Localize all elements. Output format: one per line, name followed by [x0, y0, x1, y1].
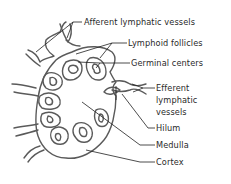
label-efferent-line3: vessels [156, 107, 187, 117]
efferent-vessels-shape [104, 81, 146, 94]
lymphoid-follicles [39, 58, 109, 145]
lymph-node-diagram [0, 0, 231, 184]
label-efferent-line2: lymphatic [156, 95, 197, 105]
label-afferent-lymphatic-vessels: Afferent lymphatic vessels [84, 17, 195, 27]
label-lymphoid-follicles: Lymphoid follicles [128, 38, 203, 48]
label-efferent-line1: Efferent [156, 83, 189, 93]
afferent-vessels-shape [12, 22, 80, 162]
label-cortex: Cortex [156, 157, 184, 167]
label-germinal-centers: Germinal centers [131, 58, 203, 68]
label-hilum: Hilum [156, 123, 180, 133]
label-medulla: Medulla [156, 140, 189, 150]
